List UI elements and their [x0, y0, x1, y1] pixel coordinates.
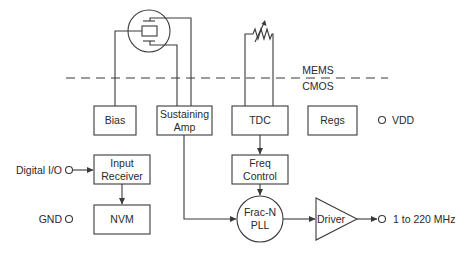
svg-text:Bias: Bias — [105, 114, 125, 126]
input-receiver-block: Input Receiver — [94, 155, 150, 184]
svg-text:Frac-N: Frac-N — [244, 206, 276, 218]
driver-block: Driver — [316, 198, 357, 240]
svg-text:Regs: Regs — [320, 114, 345, 126]
svg-text:Driver: Driver — [317, 213, 346, 225]
variable-resistor-icon — [245, 20, 273, 106]
regs-block: Regs — [308, 106, 357, 135]
svg-text:Sustaining: Sustaining — [160, 108, 209, 120]
svg-text:Control: Control — [243, 170, 277, 182]
output-pin: 1 to 220 MHz — [379, 213, 456, 225]
mems-resonator-icon — [115, 10, 191, 106]
svg-text:Digital I/O: Digital I/O — [16, 164, 62, 176]
gnd-pin: GND — [39, 213, 73, 225]
svg-text:Amp: Amp — [174, 121, 196, 133]
svg-text:PLL: PLL — [251, 219, 270, 231]
digital-io-pin: Digital I/O — [16, 164, 93, 176]
frac-n-pll-block: Frac-N PLL — [237, 196, 283, 242]
svg-text:VDD: VDD — [392, 114, 415, 126]
tdc-block: TDC — [232, 106, 288, 135]
nvm-block: NVM — [94, 205, 150, 234]
mems-label: MEMS — [302, 64, 334, 76]
svg-text:Receiver: Receiver — [101, 170, 143, 182]
svg-text:Freq: Freq — [249, 157, 271, 169]
freq-control-block: Freq Control — [232, 155, 288, 184]
sustaining-amp-block: Sustaining Amp — [157, 106, 212, 135]
bias-block: Bias — [94, 106, 136, 135]
block-diagram: MEMS CMOS Bias Sustaining Amp TDC Regs V… — [0, 0, 461, 253]
svg-text:NVM: NVM — [110, 213, 133, 225]
svg-text:Input: Input — [110, 157, 133, 169]
svg-text:GND: GND — [39, 213, 63, 225]
cmos-label: CMOS — [302, 80, 334, 92]
svg-text:TDC: TDC — [249, 114, 271, 126]
svg-text:1 to 220 MHz: 1 to 220 MHz — [393, 213, 455, 225]
vdd-pin: VDD — [379, 114, 415, 126]
